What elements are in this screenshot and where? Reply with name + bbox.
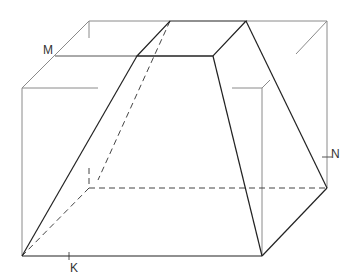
frustum-in-box-diagram: M N K	[0, 0, 357, 280]
hidden-back-left-lateral-edge	[98, 21, 170, 180]
label-n: N	[331, 147, 340, 161]
box-front-right-diagonal-stub	[262, 80, 270, 88]
frustum-back-right-lateral-edge	[246, 21, 327, 188]
frustum-front-right-lateral-edge	[213, 56, 262, 256]
label-k: K	[70, 261, 78, 275]
bounding-box	[22, 21, 332, 260]
frustum-top-face	[137, 21, 246, 56]
box-top-left-diagonal	[22, 21, 89, 88]
frustum-front-left-lateral-edge	[22, 56, 137, 256]
label-m: M	[43, 43, 53, 57]
frustum-base-right-edge	[262, 188, 327, 256]
box-top-right-diagonal	[296, 21, 327, 54]
